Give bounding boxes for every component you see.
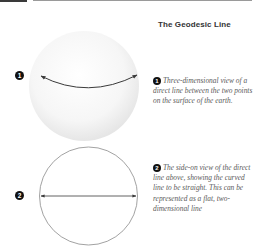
sphere (29, 31, 139, 141)
circle-figure (40, 147, 138, 245)
description-1: 1Three-dimensional view of a direct line… (153, 76, 253, 107)
description-2: 2The side-on view of the direct line abo… (153, 163, 253, 214)
description-1-text: Three-dimensional view of a direct line … (153, 76, 252, 105)
sphere-figure (29, 31, 139, 141)
figure-marker-2: 2 (15, 191, 24, 200)
inline-marker-2: 2 (153, 164, 161, 172)
inline-marker-1: 1 (153, 77, 161, 85)
figure-marker-1: 1 (15, 71, 24, 80)
description-2-text: The side-on view of the direct line abov… (153, 163, 250, 213)
